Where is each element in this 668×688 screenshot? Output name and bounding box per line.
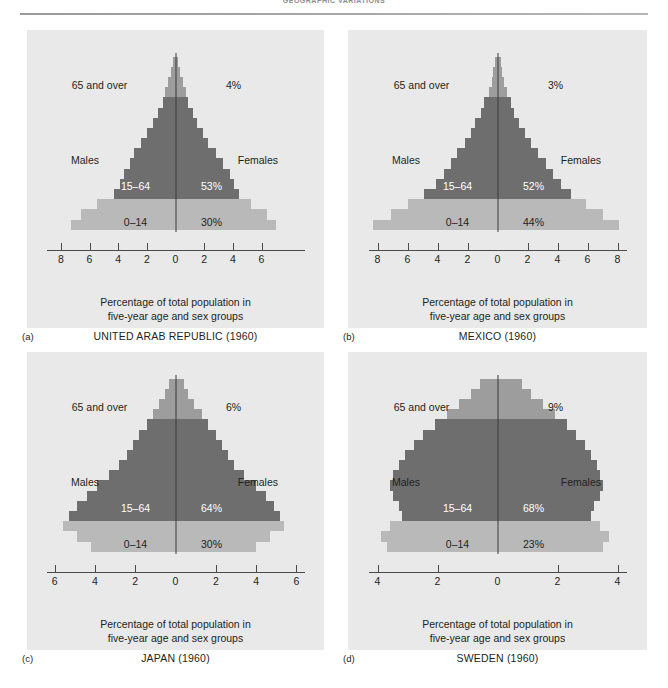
bar-male [119, 460, 175, 470]
bar-female [498, 491, 600, 501]
bar-female [176, 87, 186, 97]
axis-caption-line1: Percentage of total population in [27, 296, 324, 310]
bar-female [176, 491, 267, 501]
bar-female [498, 531, 609, 541]
bar-female [176, 419, 208, 429]
x-axis-b: 864202468 [369, 242, 627, 268]
axis-baseline [369, 572, 627, 573]
bar-male [130, 158, 176, 168]
bar-female [176, 158, 223, 168]
bar-male [133, 440, 175, 450]
chart-title-d: SWEDEN (1960) [348, 652, 647, 666]
bar-female [176, 440, 222, 450]
label-15-64: 15–64 [443, 502, 472, 514]
bar-male [159, 399, 175, 409]
axis-tick-label: 4 [555, 253, 561, 265]
figure-grid: 65 and over4%MalesFemales15–6453%0–1430%… [0, 0, 668, 688]
bar-female [176, 108, 193, 118]
axis-tick-label: 6 [585, 253, 591, 265]
axis-tick [558, 565, 559, 573]
label-0-14: 0–14 [124, 538, 147, 550]
axis-tick-label: 4 [115, 253, 121, 265]
axis-tick [408, 243, 409, 251]
bar-female [176, 220, 276, 230]
center-axis-line [175, 375, 176, 554]
axis-tick-label: 6 [294, 575, 300, 587]
bar-female [498, 379, 522, 389]
axis-tick [438, 243, 439, 251]
bar-female [176, 138, 209, 148]
pct-15-64: 52% [523, 180, 544, 192]
label-males: Males [71, 154, 99, 166]
bar-female [498, 158, 546, 168]
axis-tick-label: 0 [495, 575, 501, 587]
bar-female [498, 138, 531, 148]
axis-tick-label: 6 [259, 253, 265, 265]
label-0-14: 0–14 [446, 216, 469, 228]
axis-tick-label: 0 [173, 253, 179, 265]
axis-tick-label: 8 [615, 253, 621, 265]
axis-end-cap [55, 565, 56, 573]
axis-tick-label: 6 [87, 253, 93, 265]
bar-female [498, 118, 519, 128]
bar-male [381, 531, 498, 541]
bar-female [176, 430, 216, 440]
bar-male [141, 138, 175, 148]
bar-female [176, 118, 198, 128]
axis-tick-label: 8 [375, 253, 381, 265]
axis-caption-line2: five-year age and sex groups [348, 632, 647, 646]
bar-male [399, 460, 498, 470]
center-axis-line [497, 53, 498, 232]
bar-female [498, 169, 554, 179]
label-65-and-over: 65 and over [72, 401, 127, 413]
axis-tick-label: 6 [52, 575, 58, 587]
bar-male [484, 97, 498, 107]
label-15-64: 15–64 [121, 180, 150, 192]
pct-0-14: 44% [523, 216, 544, 228]
bar-female [498, 220, 620, 230]
label-65-and-over: 65 and over [72, 79, 127, 91]
axis-tick-label: 2 [435, 575, 441, 587]
pct-65-and-over: 6% [226, 401, 241, 413]
axis-tick [233, 243, 234, 251]
bar-female [498, 521, 600, 531]
bar-male [139, 430, 175, 440]
bar-male [457, 148, 498, 158]
label-females: Females [561, 476, 601, 488]
label-15-64: 15–64 [443, 180, 472, 192]
bar-male [124, 169, 176, 179]
bar-male [390, 521, 498, 531]
label-0-14: 0–14 [124, 216, 147, 228]
bar-female [176, 389, 188, 399]
bar-female [176, 450, 228, 460]
bar-female [498, 77, 504, 87]
axis-tick-label: 8 [58, 253, 64, 265]
bar-female [176, 460, 234, 470]
axis-end-cap [61, 243, 62, 251]
axis-tick-label: 0 [173, 575, 179, 587]
bar-male [109, 470, 176, 480]
chart-panel-c: 65 and over6%MalesFemales15–6464%0–1430%… [27, 352, 324, 650]
bar-female [498, 209, 603, 219]
bar-male [435, 419, 498, 429]
bar-female [176, 399, 194, 409]
bar-female [498, 501, 594, 511]
axis-tick [262, 243, 263, 251]
bar-female [498, 97, 512, 107]
center-axis-line [175, 53, 176, 232]
bar-female [498, 430, 576, 440]
bar-male [165, 87, 175, 97]
bar-male [153, 409, 175, 419]
pct-15-64: 64% [201, 502, 222, 514]
bar-female [498, 409, 555, 419]
axis-tick-label: 0 [495, 253, 501, 265]
label-females: Females [238, 154, 278, 166]
bar-female [176, 97, 189, 107]
bar-male [127, 450, 175, 460]
bar-male [393, 491, 498, 501]
bar-male [471, 128, 498, 138]
axis-tick [95, 565, 96, 573]
bar-male [447, 409, 498, 419]
axis-baseline [47, 250, 305, 251]
bar-male [451, 158, 498, 168]
